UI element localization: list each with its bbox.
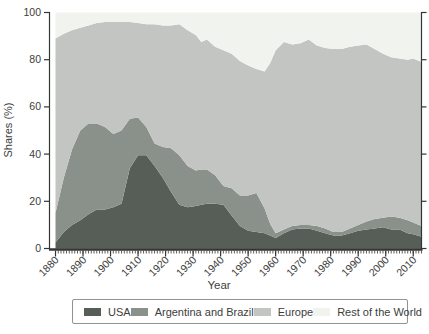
- x-tick-label: 1980: [311, 253, 336, 278]
- legend-swatch-europe: [254, 308, 271, 316]
- y-tick-label: 40: [29, 148, 41, 160]
- legend-item-europe: Europe: [254, 306, 313, 318]
- x-tick-label: 1890: [63, 253, 88, 278]
- x-tick-label: 1900: [91, 253, 116, 278]
- legend-swatch-usa: [84, 308, 101, 316]
- legend: USA Argentina and Brazil Europe Rest of …: [72, 299, 408, 324]
- y-tick-label: 60: [29, 100, 41, 112]
- legend-item-argentina-and-brazil: Argentina and Brazil: [131, 306, 254, 318]
- legend-label-rest-of-the-world: Rest of the World: [337, 306, 422, 318]
- x-tick-label: 1940: [201, 253, 226, 278]
- x-tick-label: 1960: [256, 253, 281, 278]
- y-axis-title: Shares (%): [2, 102, 14, 157]
- legend-label-usa: USA: [108, 306, 131, 318]
- x-tick-label: 1970: [284, 253, 309, 278]
- y-tick-label: 0: [35, 242, 41, 254]
- x-tick-label: 2000: [366, 253, 391, 278]
- legend-label-argentina-and-brazil: Argentina and Brazil: [155, 306, 254, 318]
- x-tick-label: 1920: [146, 253, 171, 278]
- x-tick-label: 1930: [174, 253, 199, 278]
- legend-swatch-rest-of-the-world: [313, 308, 330, 316]
- x-tick-label: 1910: [118, 253, 143, 278]
- legend-item-usa: USA: [84, 306, 131, 318]
- x-tick-label: 1990: [339, 253, 364, 278]
- legend-label-europe: Europe: [278, 306, 313, 318]
- stacked-area-figure: 0204060801001880189019001910192019301940…: [0, 0, 429, 334]
- x-tick-label: 2010: [394, 253, 419, 278]
- y-tick-label: 80: [29, 53, 41, 65]
- legend-item-rest-of-the-world: Rest of the World: [313, 306, 422, 318]
- legend-swatch-argentina-and-brazil: [131, 308, 148, 316]
- chart-canvas: 0204060801001880189019001910192019301940…: [0, 0, 429, 334]
- y-tick-label: 20: [29, 195, 41, 207]
- x-tick-label: 1880: [36, 253, 61, 278]
- x-tick-label: 1950: [229, 253, 254, 278]
- x-axis-title: Year: [207, 279, 230, 291]
- y-tick-label: 100: [23, 6, 41, 18]
